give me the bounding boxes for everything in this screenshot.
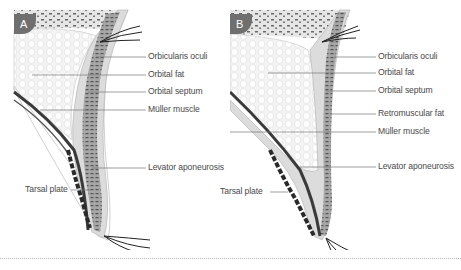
panel-a: A Orbicularis oculi Orbital fat Orbital … [0, 0, 230, 250]
label-muller-muscle: Müller muscle [378, 126, 430, 136]
eyelid-cross-section-b-illustration [230, 0, 461, 250]
label-levator-aponeurosis: Levator aponeurosis [148, 162, 224, 172]
label-muller-muscle: Müller muscle [148, 104, 200, 114]
label-orbital-septum: Orbital septum [378, 85, 432, 95]
label-tarsal-plate: Tarsal plate [25, 184, 68, 194]
label-levator-aponeurosis: Levator aponeurosis [378, 161, 454, 171]
panel-b: B Orbicularis oculi Orbital fat Orbital … [230, 0, 461, 250]
label-retromuscular-fat: Retromuscular fat [378, 108, 444, 118]
label-tarsal-plate: Tarsal plate [220, 186, 263, 196]
label-orbicularis-oculi: Orbicularis oculi [378, 51, 437, 61]
eyelid-cross-section-a-illustration [0, 0, 230, 250]
label-orbicularis-oculi: Orbicularis oculi [148, 51, 207, 61]
label-orbital-fat: Orbital fat [148, 69, 184, 79]
label-orbital-fat: Orbital fat [378, 67, 414, 77]
label-orbital-septum: Orbital septum [148, 86, 202, 96]
footer-divider [0, 258, 461, 259]
